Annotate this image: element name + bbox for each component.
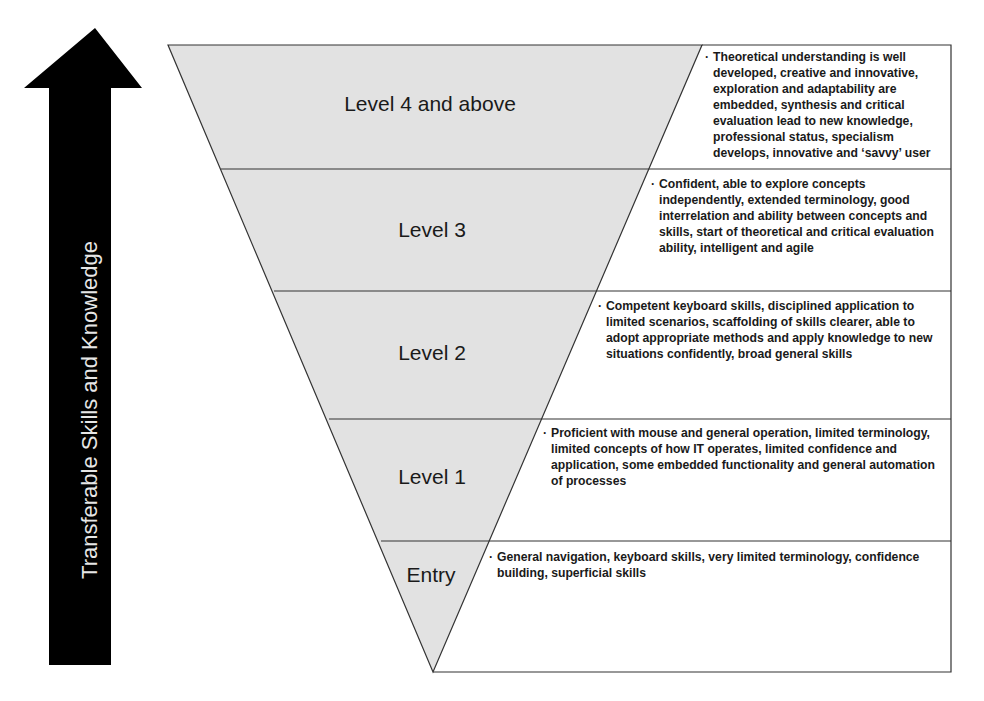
bullet-icon: · xyxy=(705,49,709,65)
bullet-icon: · xyxy=(651,176,655,192)
arrow-label: Transferable Skills and Knowledge xyxy=(78,130,102,690)
bullet-icon: · xyxy=(543,425,547,441)
level-description: · Theoretical understanding is well deve… xyxy=(713,49,947,161)
level-description: · Competent keyboard skills, disciplined… xyxy=(606,298,948,362)
level-label: Level 2 xyxy=(398,341,466,365)
level-label: Level 1 xyxy=(398,465,466,489)
bullet-icon: · xyxy=(489,549,493,565)
level-description: · Proficient with mouse and general oper… xyxy=(551,425,946,489)
level-label: Entry xyxy=(406,563,455,587)
level-description: · Confident, able to explore concepts in… xyxy=(659,176,949,256)
level-description: · General navigation, keyboard skills, v… xyxy=(497,549,945,581)
bullet-icon: · xyxy=(598,298,602,314)
level-label: Level 3 xyxy=(398,218,466,242)
level-label: Level 4 and above xyxy=(344,92,516,116)
